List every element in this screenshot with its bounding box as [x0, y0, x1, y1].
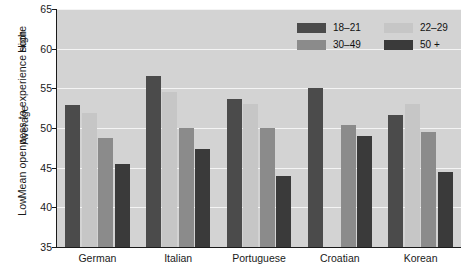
y-tick-mark	[52, 247, 57, 248]
bar	[115, 164, 130, 247]
bar-chart: Mean openness to experience score High A…	[0, 0, 469, 272]
legend-entry: 18–21	[297, 22, 370, 33]
y-tick-label: 45	[30, 162, 52, 174]
bar	[341, 125, 356, 247]
bar	[65, 105, 80, 247]
y-tick-label: 55	[30, 82, 52, 94]
y-tick-mark	[52, 49, 57, 50]
bar	[357, 136, 372, 247]
bar	[276, 176, 291, 247]
bar	[438, 172, 453, 247]
legend-swatch	[297, 23, 326, 33]
legend-label: 30–49	[333, 39, 361, 50]
y-tick-label: 60	[30, 43, 52, 55]
bar	[243, 104, 258, 247]
y-tick-mark	[52, 88, 57, 89]
y-tick-label: 65	[30, 3, 52, 15]
x-category-label: Croatian	[320, 252, 360, 264]
y-tick-label: 40	[30, 201, 52, 213]
x-axis-line	[56, 247, 461, 248]
legend: 18–2122–2930–4950 +	[297, 22, 457, 50]
legend-entry: 22–29	[384, 22, 457, 33]
legend-label: 18–21	[333, 22, 361, 33]
bar	[146, 76, 161, 247]
gridline	[57, 88, 461, 89]
bar	[179, 128, 194, 247]
legend-entry: 30–49	[297, 39, 370, 50]
y-tick-mark	[52, 207, 57, 208]
bar	[227, 99, 242, 247]
x-category-label: German	[78, 252, 116, 264]
legend-swatch	[384, 40, 413, 50]
y-tick-mark	[52, 128, 57, 129]
x-category-label: Portuguese	[232, 252, 286, 264]
gridline	[57, 9, 461, 10]
bar	[98, 138, 113, 247]
legend-entry: 50 +	[384, 39, 457, 50]
legend-swatch	[384, 23, 413, 33]
x-category-label: Italian	[164, 252, 192, 264]
y-tick-mark	[52, 168, 57, 169]
bar	[260, 128, 275, 247]
bar	[308, 88, 323, 247]
bar	[195, 149, 210, 247]
y-tick-label: 35	[30, 241, 52, 253]
y-tick-mark	[52, 9, 57, 10]
legend-label: 22–29	[420, 22, 448, 33]
bar	[388, 115, 403, 247]
bar	[421, 132, 436, 247]
y-axis-tick-labels: 35404550556065	[26, 9, 52, 247]
x-category-label: Korean	[404, 252, 438, 264]
legend-swatch	[297, 40, 326, 50]
y-tick-label: 50	[30, 122, 52, 134]
bar	[82, 113, 97, 247]
bar	[162, 92, 177, 247]
legend-label: 50 +	[420, 39, 440, 50]
bar	[405, 104, 420, 247]
